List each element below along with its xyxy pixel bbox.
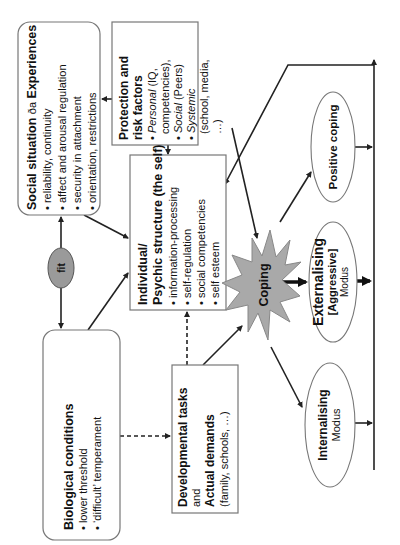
arrow-developmental-to-coping	[203, 326, 242, 365]
social-item-orientation: • orientation, restrictions	[86, 92, 98, 210]
arrow-social-to-psychic	[84, 215, 128, 238]
protection-systemic-line2: (school, media,	[198, 59, 210, 134]
protection-personal: • Personal (IQ,	[146, 68, 158, 140]
protection-title-line2: risk factors	[131, 75, 145, 140]
developmental-and: and	[190, 489, 202, 507]
protection-personal-line2: competencies),	[159, 59, 171, 134]
arrow-coping-to-positive	[280, 172, 311, 222]
developmental-title: Developmental tasks	[176, 387, 190, 507]
protection-risk-box: Protection and risk factors • Personal (…	[112, 22, 223, 145]
positive-coping-label: Positive coping	[327, 105, 339, 190]
arrow-coping-to-internalising	[271, 347, 302, 407]
protection-systemic-line3: …)	[211, 119, 223, 134]
internalising-node: Internalising Modus	[305, 363, 355, 487]
externalising-mode: Modus	[339, 267, 350, 297]
externalising-subtitle: [Aggressive]	[326, 248, 338, 315]
externalising-title: Externalising	[310, 238, 326, 326]
psychic-item-social-competencies: • social competencies	[195, 199, 207, 305]
coping-label: Coping	[257, 263, 271, 306]
social-item-reliability: • reliability, continuity	[41, 108, 53, 210]
biological-item-threshold: • lower threshold	[77, 448, 89, 530]
positive-coping-node: Positive coping	[311, 92, 355, 202]
psychic-title-line2: Psychic structure (the self)	[151, 145, 165, 305]
social-situation-title: Social situation ða Experiences	[25, 25, 39, 210]
coping-node: Coping	[222, 230, 301, 340]
arrow-biological-to-psychic	[88, 273, 128, 330]
developmental-detail: (family, schools, …)	[218, 411, 230, 507]
internalising-mode: Modus	[330, 408, 342, 442]
developmental-tasks-box: Developmental tasks and Actual demands (…	[172, 365, 238, 513]
psychic-item-information: • information-processing	[167, 187, 179, 305]
externalising-node: Externalising [Aggressive] Modus	[309, 222, 357, 342]
psychic-item-self-regulation: • self-regulation	[181, 229, 193, 305]
psychic-item-self-esteem: • self esteem	[209, 242, 221, 305]
coping-model-diagram: Social situation ða Experiences • reliab…	[0, 0, 400, 545]
social-item-security: • security in attachment	[71, 96, 83, 210]
internalising-title: Internalising	[316, 389, 330, 460]
social-item-affect: • affect and arousal regulation	[56, 64, 68, 210]
protection-social: • Social (Peers)	[172, 64, 184, 140]
biological-title: Biological conditions	[62, 404, 76, 530]
developmental-actual-demands: Actual demands	[203, 414, 217, 507]
protection-title-line1: Protection and	[117, 56, 131, 140]
psychic-structure-box: Individual/ Psychic structure (the self)…	[130, 145, 226, 310]
psychic-title-line1: Individual/	[136, 243, 150, 305]
protection-systemic: • Systemic	[185, 88, 197, 140]
biological-conditions-box: Biological conditions • lower threshold …	[43, 330, 120, 540]
arrow-protection-to-coping	[232, 128, 257, 238]
biological-item-temperament: • ‘difficult’ temperament	[91, 417, 103, 530]
social-situation-box: Social situation ða Experiences • reliab…	[18, 22, 100, 215]
fit-label: fit	[56, 263, 67, 273]
fit-node: fit	[48, 248, 74, 288]
